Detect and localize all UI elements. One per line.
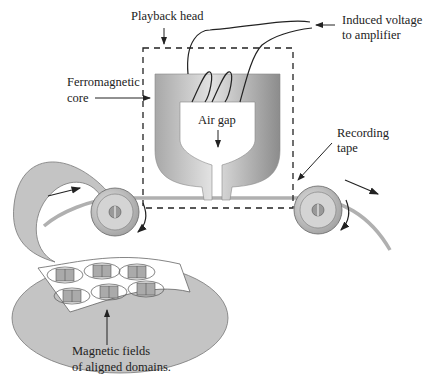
label-ferromagnetic-2: core <box>67 91 89 105</box>
right-roller <box>294 186 342 234</box>
label-playback-head: Playback head <box>131 9 204 23</box>
label-induced-voltage-1: Induced voltage <box>342 13 423 27</box>
label-air-gap: Air gap <box>198 113 236 127</box>
rotation-arrow <box>138 203 146 232</box>
label-magnetic-fields-2: of aligned domains. <box>72 360 171 374</box>
label-recording-tape-1: Recording <box>337 126 390 140</box>
label-ferromagnetic-1: Ferromagnetic <box>67 75 140 89</box>
tape-direction-arrow <box>345 180 378 194</box>
recording-tape-pointer <box>298 143 332 180</box>
label-recording-tape-2: tape <box>337 141 358 155</box>
playback-head-diagram: Playback head Induced voltage to amplifi… <box>0 0 424 378</box>
label-magnetic-fields-1: Magnetic fields <box>72 344 150 358</box>
left-roller <box>91 188 139 236</box>
label-induced-voltage-2: to amplifier <box>342 28 401 42</box>
